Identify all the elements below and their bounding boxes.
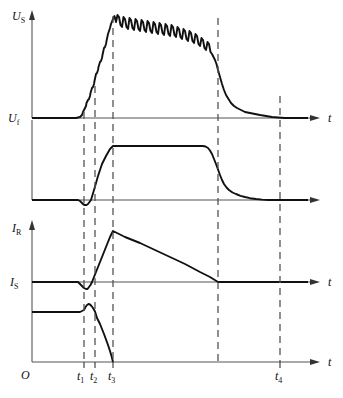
panel-ir-is-t-label: t (328, 275, 332, 289)
panel-middle (32, 120, 320, 205)
panel-ir-x-arrow (310, 359, 320, 365)
tick-label-t2: t2 (90, 369, 97, 385)
panel-middle-curve (32, 146, 308, 205)
panel-us-y-arrow (29, 10, 35, 20)
panel-us-t-label: t (328, 111, 332, 125)
panel-ir-t-label: t (328, 355, 332, 369)
panel-ir-is-arrow (310, 279, 320, 285)
panel-ir: IR IS t t O (9, 220, 332, 382)
tick-label-t4: t4 (275, 369, 282, 385)
panel-us: US Uf t (8, 9, 332, 127)
origin-label: O (21, 368, 30, 382)
tick-label-t1: t1 (77, 369, 84, 385)
time-marker-lines (84, 16, 280, 362)
panel-us-y-label: US (12, 9, 25, 25)
panel-ir-upper-curve (32, 231, 308, 289)
tick-label-t3: t3 (108, 369, 115, 385)
diagram-svg: US Uf t IR IS t t O (0, 0, 343, 398)
panel-ir-y-arrow (29, 220, 35, 230)
panel-middle-x-arrow (310, 197, 320, 203)
panel-us-level-label: Uf (8, 111, 20, 127)
waveform-diagram: US Uf t IR IS t t O (0, 0, 343, 398)
panel-ir-lower-curve (32, 304, 113, 362)
panel-ir-is-label: IS (9, 275, 18, 291)
panel-ir-y-label: IR (11, 221, 22, 237)
axis-ticks (84, 362, 280, 368)
panel-us-curve (32, 15, 308, 118)
panel-us-x-arrow (310, 115, 320, 121)
